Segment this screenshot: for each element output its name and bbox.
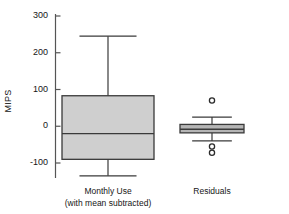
x-axis-category-label: Residuals (142, 186, 282, 196)
outlier-point (209, 98, 214, 103)
x-axis-category-sublabel: (with mean subtracted) (38, 198, 178, 208)
outlier-point (209, 150, 214, 155)
y-axis-title: MIPS (3, 81, 13, 121)
y-axis-tick-label: 300 (14, 10, 48, 20)
box-series (62, 36, 244, 176)
y-axis-tick-label: -100 (14, 157, 48, 167)
box-rect (62, 96, 154, 160)
y-axis-tick-label: 200 (14, 47, 48, 57)
y-axis-tick-label: 0 (14, 120, 48, 130)
y-axis-tick-label: 100 (14, 84, 48, 94)
y-axis (56, 14, 61, 178)
plot-area (0, 0, 289, 214)
outlier-point (209, 144, 214, 149)
y-axis-ticks (56, 16, 61, 163)
